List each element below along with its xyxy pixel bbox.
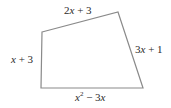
side-label-left: x + 3: [11, 53, 33, 65]
constant-term: + 1: [145, 43, 162, 55]
variable: x: [101, 91, 106, 103]
side-label-right: 3x + 1: [135, 43, 163, 55]
linear-term-coef: − 3: [83, 91, 100, 103]
quadrilateral-shape: [41, 12, 143, 88]
constant-term: + 3: [74, 4, 91, 16]
constant-term: + 3: [16, 53, 33, 65]
side-label-top: 2x + 3: [64, 4, 92, 16]
side-label-bottom: x2 − 3x: [75, 91, 106, 103]
